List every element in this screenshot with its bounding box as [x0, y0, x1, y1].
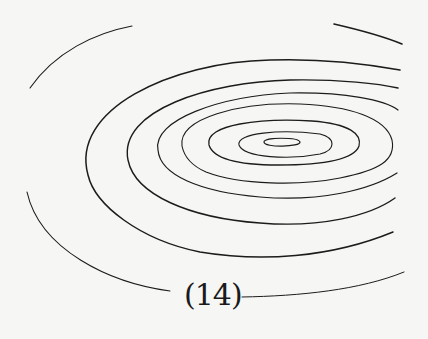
- contour-ring-8-right: [334, 24, 402, 44]
- contour-ring-7: [86, 60, 400, 257]
- contour-ring-6: [127, 80, 398, 224]
- contour-ring-1: [264, 138, 300, 146]
- contour-ring-8-left: [27, 26, 170, 291]
- contour-ring-4: [182, 104, 393, 183]
- figure-caption: (14): [184, 280, 242, 310]
- contour-ring-8-bottom: [242, 272, 404, 297]
- contour-ring-3: [209, 120, 360, 165]
- contour-ring-2: [239, 132, 332, 157]
